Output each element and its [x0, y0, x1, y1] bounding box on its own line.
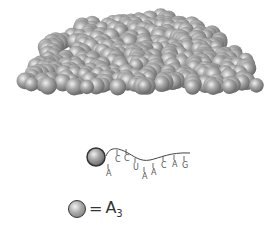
rna-base-label: A — [172, 160, 178, 169]
atom-sphere — [39, 77, 57, 95]
atom-sphere — [109, 79, 126, 96]
atom-sphere — [24, 77, 39, 92]
atom-sphere — [153, 76, 169, 92]
legend-label: A3 — [105, 198, 122, 219]
atom-sphere — [185, 79, 200, 94]
rna-base-label: C — [124, 154, 130, 163]
atom-sphere — [137, 79, 151, 93]
rna-base-label: A — [142, 172, 148, 181]
rna-base-label: G — [182, 161, 188, 170]
molecular-diagram: ACCUAACAG = A3 — [0, 0, 271, 231]
atom-sphere — [222, 79, 237, 94]
highlighted-a3-sphere — [87, 148, 105, 166]
atom-sphere — [205, 79, 221, 95]
sphere-legend-icon — [68, 200, 86, 218]
atom-sphere — [80, 80, 94, 94]
legend-equals: = — [89, 199, 102, 218]
protein-spheres — [17, 8, 264, 95]
rna-base-label: A — [151, 168, 157, 177]
rna-base-label: A — [106, 169, 112, 178]
rna-base-label: U — [133, 163, 139, 172]
atom-sphere — [249, 78, 264, 93]
rna-base-label: C — [161, 161, 167, 170]
legend: = A3 — [68, 198, 123, 219]
protein-space-filling-model: ACCUAACAG — [0, 0, 271, 231]
rna-base-label: C — [115, 155, 121, 164]
